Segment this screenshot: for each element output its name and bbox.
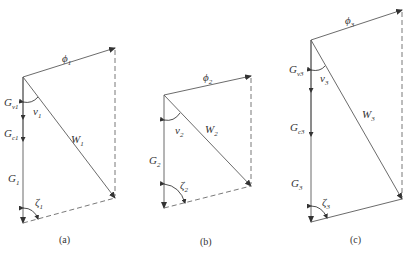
zeta-angle-arc-a bbox=[23, 208, 38, 219]
velocity-triangle-figure: ϕ1 Gν1 ν1 Gc1 W1 G1 ζ1 (a) ϕ2 ν2 W2 G2 ζ… bbox=[0, 0, 415, 258]
phi-vector-c bbox=[311, 10, 402, 40]
w-label-b: W2 bbox=[205, 123, 218, 138]
zeta-label-b: ζ2 bbox=[180, 179, 188, 194]
zeta-label-c: ζ3 bbox=[322, 196, 330, 211]
w-label-c: W3 bbox=[362, 108, 375, 123]
g-label-a: G1 bbox=[8, 172, 19, 187]
w-vector-c bbox=[311, 40, 402, 199]
g-nu-label-c: Gν3 bbox=[289, 63, 304, 78]
w-label-a: W1 bbox=[71, 133, 84, 148]
nu-label-a: ν1 bbox=[33, 105, 41, 120]
w-vector-a bbox=[23, 77, 115, 198]
phi-label-a: ϕ1 bbox=[62, 52, 71, 67]
panel-a: ϕ1 Gν1 ν1 Gc1 W1 G1 ζ1 (a) bbox=[4, 48, 115, 246]
panel-b: ϕ2 ν2 W2 G2 ζ2 (b) bbox=[149, 71, 251, 248]
nu-angle-arc-b bbox=[164, 113, 180, 120]
nu-angle-arc-c bbox=[311, 66, 325, 71]
w-vector-b bbox=[164, 95, 251, 186]
nu-label-c: ν3 bbox=[320, 72, 329, 87]
caption-c: (c) bbox=[350, 234, 361, 246]
nu-label-b: ν2 bbox=[175, 124, 184, 139]
phi-label-c: ϕ3 bbox=[345, 14, 355, 29]
caption-a: (a) bbox=[59, 234, 70, 246]
caption-b: (b) bbox=[200, 236, 212, 248]
g-label-b: G2 bbox=[149, 154, 161, 169]
nu-angle-arc-a bbox=[23, 97, 38, 102]
phi-label-b: ϕ2 bbox=[203, 71, 213, 86]
g-label-c: G3 bbox=[291, 177, 303, 192]
g-nu-label-a: Gν1 bbox=[4, 96, 19, 111]
panel-c: ϕ3 Gν3 ν3 Gc3 W3 G3 ζ3 (c) bbox=[289, 10, 402, 246]
g-c-label-c: Gc3 bbox=[290, 121, 305, 136]
zeta-label-a: ζ1 bbox=[35, 196, 43, 211]
g-c-label-a: Gc1 bbox=[4, 127, 19, 142]
